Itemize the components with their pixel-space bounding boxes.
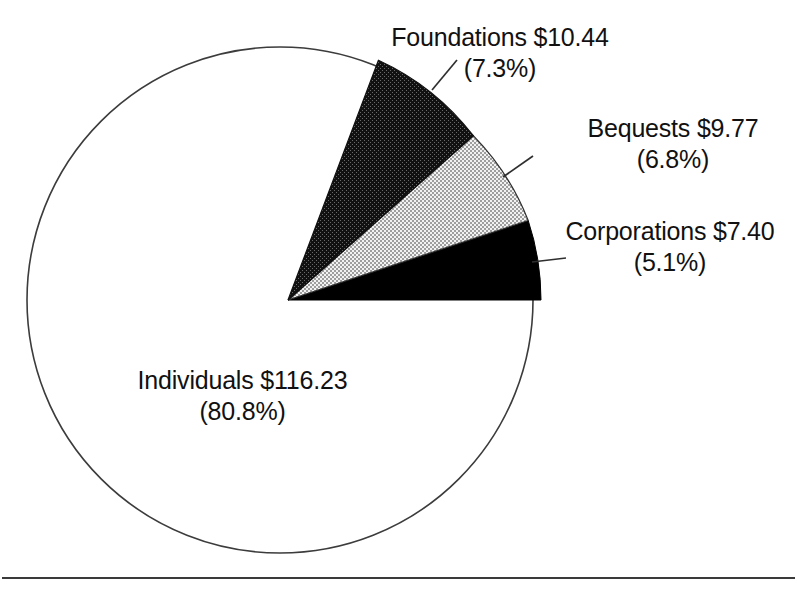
pie-label-foundations: Foundations $10.44 (7.3%) (369, 22, 631, 83)
leader-line-bequests (503, 156, 533, 177)
pie-label-individuals-percent: (80.8%) (110, 396, 375, 427)
pie-label-bequests-percent: (6.8%) (551, 144, 795, 175)
pie-chart (0, 0, 797, 593)
pie-label-individuals-value: Individuals $116.23 (110, 365, 375, 396)
pie-label-bequests-value: Bequests $9.77 (551, 113, 795, 144)
pie-label-individuals: Individuals $116.23 (80.8%) (110, 365, 375, 426)
pie-label-corporations: Corporations $7.40 (5.1%) (545, 216, 795, 277)
pie-label-foundations-percent: (7.3%) (369, 53, 631, 84)
pie-label-corporations-value: Corporations $7.40 (545, 216, 795, 247)
pie-label-foundations-value: Foundations $10.44 (369, 22, 631, 53)
pie-label-corporations-percent: (5.1%) (545, 247, 795, 278)
pie-label-bequests: Bequests $9.77 (6.8%) (551, 113, 795, 174)
figure-canvas: Foundations $10.44 (7.3%) Bequests $9.77… (0, 0, 797, 593)
